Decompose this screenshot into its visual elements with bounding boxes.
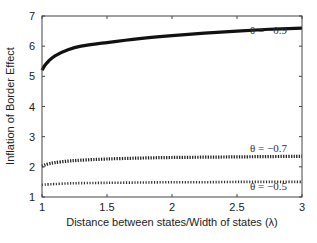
- y-axis-label: Inflation of Border Effect: [4, 47, 16, 165]
- x-tick-label: 2.5: [229, 201, 244, 213]
- y-tick-label: 6: [29, 40, 35, 52]
- series-line-1: [42, 156, 302, 166]
- y-tick-label: 7: [29, 10, 35, 22]
- y-tick-label: 5: [29, 70, 35, 82]
- y-tick-label: 1: [29, 191, 35, 203]
- plot-frame: [42, 16, 302, 197]
- y-tick-label: 4: [29, 101, 35, 113]
- series-group: [42, 28, 302, 185]
- annotations: θ = −0.9θ = −0.7θ = −0.5: [250, 24, 287, 192]
- x-tick-label: 1: [39, 201, 45, 213]
- y-axis: 1234567: [29, 10, 302, 203]
- x-axis-label: Distance between states/Width of states …: [66, 216, 278, 228]
- x-tick-label: 1.5: [99, 201, 114, 213]
- x-tick-label: 3: [299, 201, 305, 213]
- series-annotation: θ = −0.9: [250, 24, 287, 36]
- y-tick-label: 2: [29, 161, 35, 173]
- y-tick-label: 3: [29, 131, 35, 143]
- line-chart: 1234567 11.522.53 θ = −0.9θ = −0.7θ = −0…: [0, 0, 317, 243]
- series-annotation: θ = −0.5: [250, 180, 287, 192]
- series-annotation: θ = −0.7: [250, 142, 287, 154]
- x-tick-label: 2: [169, 201, 175, 213]
